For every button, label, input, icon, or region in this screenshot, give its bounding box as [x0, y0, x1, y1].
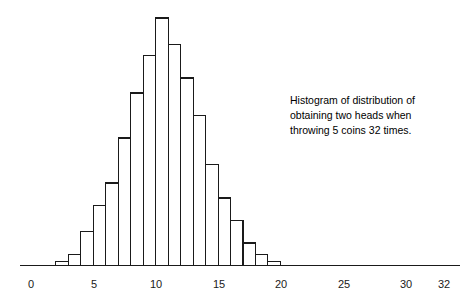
x-tick-label-15: 15: [213, 278, 225, 290]
histogram-bar: [243, 243, 255, 266]
histogram-bar: [118, 138, 130, 266]
histogram-bar: [93, 206, 105, 266]
histogram-bar: [255, 254, 267, 265]
histogram-bar: [206, 164, 218, 265]
x-tick-label-5: 5: [91, 278, 97, 290]
histogram-bar: [218, 198, 230, 266]
histogram-bar: [193, 116, 205, 266]
x-tick-label-10: 10: [150, 278, 162, 290]
x-tick-label-20: 20: [275, 278, 287, 290]
histogram-bar: [131, 93, 143, 266]
x-tick-label-0: 0: [28, 278, 34, 290]
histogram-bar: [68, 254, 80, 265]
histogram-bar: [168, 44, 180, 265]
histogram-figure: 0 5 10 15 20 25 30 32 Histogram of distr…: [0, 0, 476, 305]
x-tick-label-30: 30: [400, 278, 412, 290]
caption-line-1: Histogram of distribution of: [290, 94, 415, 106]
x-tick-label-32: 32: [438, 278, 450, 290]
x-tick-label-25: 25: [338, 278, 350, 290]
histogram-bar: [143, 56, 155, 266]
histogram-chart: 0 5 10 15 20 25 30 32 Histogram of distr…: [0, 0, 476, 305]
histogram-bar: [181, 78, 193, 266]
histogram-bar: [156, 18, 168, 266]
histogram-bar: [231, 221, 243, 266]
histogram-bar: [81, 232, 93, 266]
caption-line-3: throwing 5 coins 32 times.: [290, 124, 411, 136]
chart-caption: Histogram of distribution of obtaining t…: [290, 94, 415, 136]
caption-line-2: obtaining two heads when: [290, 109, 412, 121]
histogram-bar: [106, 183, 118, 266]
